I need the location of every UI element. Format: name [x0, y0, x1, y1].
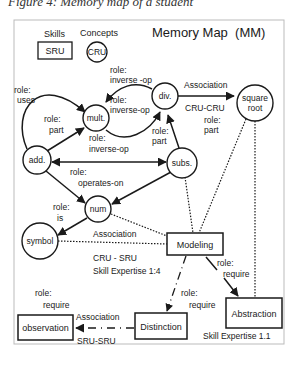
legend-concepts-label: Concepts — [80, 28, 119, 38]
svg-text:subs.: subs. — [172, 158, 192, 168]
edge-squareroot-modeling — [199, 119, 246, 233]
label-role: role: — [152, 126, 169, 136]
label-require: require — [43, 300, 70, 310]
label-inverse-op: inverse-op — [110, 105, 150, 115]
label-part: part — [204, 125, 219, 135]
label-role: role: — [14, 85, 31, 95]
concept-num[interactable]: num — [85, 196, 111, 222]
label-skill-expertise-1-1: Skill Expertise 1.1 — [203, 331, 271, 341]
svg-text:Distinction: Distinction — [140, 322, 182, 332]
svg-text:num: num — [90, 204, 107, 214]
svg-text:div.: div. — [159, 91, 172, 101]
svg-text:Modeling: Modeling — [177, 240, 214, 250]
label-is: is — [57, 213, 63, 223]
svg-text:square: square — [242, 93, 268, 103]
edge-subs-operateson-num — [112, 172, 171, 204]
svg-text:root: root — [248, 103, 263, 113]
skill-distinction[interactable]: Distinction — [135, 313, 187, 339]
label-uses: uses — [17, 95, 35, 105]
concept-div[interactable]: div. — [152, 83, 178, 109]
edge-subs-part-div — [168, 115, 179, 148]
label-role: role: — [217, 258, 234, 268]
label-role: role: — [110, 65, 127, 75]
label-association: Association — [76, 312, 120, 322]
label-sru-sru: SRU-SRU — [77, 336, 116, 346]
legend-skills-label: Skills — [44, 29, 66, 39]
label-cru-sru: CRU - SRU — [93, 253, 137, 263]
label-association: Association — [184, 80, 228, 90]
svg-text:mult.: mult. — [87, 113, 105, 123]
concept-subs[interactable]: subs. — [167, 148, 197, 178]
label-role: role: — [35, 288, 52, 298]
label-skill-expertise-1-4: Skill Expertise 1:4 — [93, 266, 161, 276]
label-role: role: — [89, 133, 106, 143]
memory-map-diagram: Skills Concepts Memory Map (MM) SRU CRU … — [0, 0, 299, 368]
concept-square-root[interactable]: square root — [237, 85, 273, 121]
edge-subs-modeling — [185, 177, 193, 233]
legend-concept-circle-label: CRU — [88, 47, 106, 57]
label-operates-on: operates-on — [78, 178, 124, 188]
diagram-title: Memory Map (MM) — [152, 25, 265, 40]
label-association: Association — [93, 229, 137, 239]
label-cru-cru: CRU-CRU — [185, 103, 225, 113]
diagram-frame — [14, 20, 284, 344]
concept-mult[interactable]: mult. — [83, 105, 109, 131]
concept-add[interactable]: add. — [23, 146, 51, 174]
legend-skill-box-label: SRU — [45, 46, 64, 56]
label-require: require — [189, 300, 216, 310]
edge-symbol-modeling — [58, 241, 167, 244]
skill-abstraction[interactable]: Abstraction — [226, 298, 282, 328]
label-role: role: — [204, 115, 221, 125]
concept-symbol[interactable]: symbol — [22, 223, 58, 259]
skill-modeling[interactable]: Modeling — [167, 233, 223, 255]
edge-modeling-require-distinction — [167, 256, 186, 311]
svg-text:add.: add. — [29, 155, 46, 165]
skill-observation[interactable]: observation — [18, 315, 73, 340]
label-role: role: — [44, 114, 61, 124]
label-part: part — [152, 136, 167, 146]
label-inverse-op: inverse-op — [89, 144, 129, 154]
label-role: role: — [181, 288, 198, 298]
svg-text:symbol: symbol — [27, 236, 54, 246]
label-part: part — [49, 125, 64, 135]
label-role: role: — [53, 202, 70, 212]
label-inverse-op: inverse -op — [110, 75, 152, 85]
svg-text:observation: observation — [22, 323, 69, 333]
svg-text:Abstraction: Abstraction — [231, 309, 276, 319]
label-require: require — [223, 269, 250, 279]
label-role: role: — [110, 95, 127, 105]
label-role: role: — [70, 167, 87, 177]
